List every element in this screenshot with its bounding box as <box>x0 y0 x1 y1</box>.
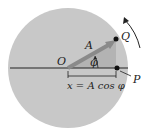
label-point-p: P <box>133 74 140 85</box>
label-projection-formula: x = A cos φ <box>67 81 125 91</box>
phasor-diagram <box>0 0 163 135</box>
label-point-q: Q <box>121 31 130 42</box>
label-origin: O <box>57 56 66 67</box>
label-angle: φ <box>90 57 98 68</box>
label-amplitude: A <box>85 40 93 51</box>
point-q-dot <box>114 37 119 42</box>
point-p-dot <box>115 66 120 71</box>
